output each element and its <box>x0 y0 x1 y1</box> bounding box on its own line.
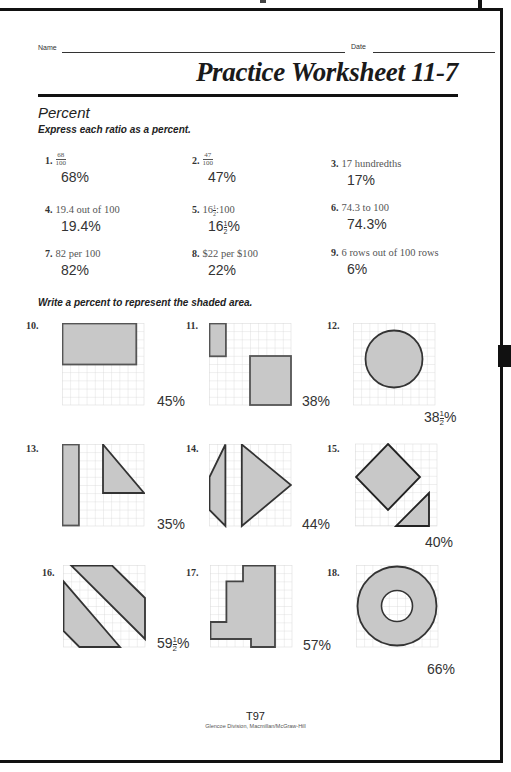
question: 17 hundredths <box>342 158 402 169</box>
page-border-top <box>0 8 503 11</box>
figure-14-grid <box>209 444 292 528</box>
date-label: Date <box>351 43 366 50</box>
question: 74.3 to 100 <box>342 202 390 213</box>
figure-number: 15. <box>327 443 340 454</box>
figure-number: 13. <box>26 443 39 454</box>
answer: 1612% <box>208 218 342 235</box>
figure-number: 17. <box>186 567 199 578</box>
problem-2: 2.47100 47% <box>192 150 342 185</box>
figure-number: 14. <box>186 443 199 454</box>
date-field-line[interactable] <box>373 52 495 53</box>
answer: 47% <box>208 169 342 185</box>
figure-number: 16. <box>42 567 55 578</box>
figure-18-grid <box>356 565 440 649</box>
figure-number: 12. <box>327 320 340 331</box>
answer: 19.4% <box>61 218 195 234</box>
problem-7: 7.82 per 100 82% <box>45 243 195 278</box>
problem-number: 8. <box>192 248 200 259</box>
answer: 6% <box>347 261 501 277</box>
part1-instruction: Express each ratio as a percent. <box>38 124 191 135</box>
figure-12-grid <box>353 323 436 406</box>
figure-answer: 57% <box>303 637 331 653</box>
answer: 74.3% <box>347 216 501 232</box>
figure-answer: 45% <box>157 393 185 409</box>
name-field-line[interactable] <box>62 52 345 53</box>
figure-number: 11. <box>186 320 198 331</box>
figure-answer: 38% <box>302 393 330 409</box>
figure-17-grid <box>210 565 294 649</box>
figure-answer: 3812% <box>424 409 456 427</box>
figure-10-grid <box>62 323 145 406</box>
problem-3: 3.17 hundredths 17% <box>331 153 501 188</box>
problem-number: 9. <box>331 247 339 258</box>
figure-answer: 35% <box>157 516 185 532</box>
figure-15-grid <box>355 443 438 528</box>
page-edge-tab <box>498 345 511 367</box>
figure-answer: 66% <box>427 661 455 677</box>
question: 82 per 100 <box>56 248 101 259</box>
problem-number: 6. <box>331 202 339 213</box>
figure-16-grid <box>63 565 147 649</box>
question: 19.4 out of 100 <box>56 204 120 215</box>
problem-1: 1.68100 68% <box>45 150 195 185</box>
page-edge-mark <box>478 0 482 10</box>
answer: 22% <box>208 262 342 278</box>
page-number: T97 <box>0 710 511 722</box>
page-border-bottom <box>0 760 503 763</box>
figure-13-grid <box>62 444 145 527</box>
figure-answer: 5912% <box>157 635 189 653</box>
problem-number: 7. <box>45 248 53 259</box>
answer: 68% <box>61 169 195 185</box>
problem-4: 4.19.4 out of 100 19.4% <box>45 199 195 234</box>
problem-5: 5.1612:100 1612% <box>192 199 342 235</box>
question: 6 rows out of 100 rows <box>342 247 439 258</box>
figure-answer: 44% <box>302 516 330 532</box>
name-label: Name <box>38 44 57 51</box>
section-heading: Percent <box>38 104 90 121</box>
page-title: Practice Worksheet 11-7 <box>196 57 458 88</box>
figure-number: 10. <box>26 320 39 331</box>
problem-number: 5. <box>192 204 200 215</box>
problem-6: 6.74.3 to 100 74.3% <box>331 197 501 232</box>
part2-instruction: Write a percent to represent the shaded … <box>38 297 252 308</box>
figure-number: 18. <box>327 567 340 578</box>
title-divider <box>38 94 458 97</box>
problem-number: 2. <box>192 155 200 166</box>
publisher-credit: Glencoe Division, Macmillan/McGraw-Hill <box>0 723 511 729</box>
page-border-right <box>500 8 503 763</box>
problem-8: 8.$22 per $100 22% <box>192 243 342 278</box>
problem-number: 3. <box>331 158 339 169</box>
question: 1612:100 <box>203 204 235 215</box>
answer: 82% <box>61 262 195 278</box>
answer: 17% <box>347 172 501 188</box>
problem-number: 4. <box>45 204 53 215</box>
figure-11-grid <box>209 323 292 406</box>
problem-9: 9.6 rows out of 100 rows 6% <box>331 242 501 277</box>
question-fraction: 47100 <box>203 152 214 167</box>
figure-answer: 40% <box>425 534 453 550</box>
cropped-text-fragment <box>260 0 266 3</box>
problem-number: 1. <box>45 155 53 166</box>
question-fraction: 68100 <box>56 152 67 167</box>
question: $22 per $100 <box>203 248 258 259</box>
